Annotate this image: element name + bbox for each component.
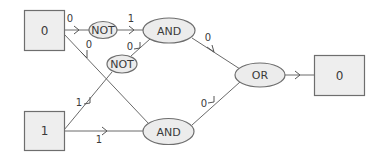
input-box-a: 0 — [25, 11, 65, 51]
not-gate-mid: NOT — [107, 55, 137, 73]
input-box-b: 1 — [25, 112, 65, 151]
or-gate-label: OR — [252, 69, 269, 82]
wire-label-a-to-not-top: 0 — [67, 13, 73, 24]
wire-and-top-to-or — [192, 38, 240, 69]
or-gate: OR — [235, 63, 285, 87]
and-gate-top-label: AND — [157, 25, 181, 38]
wire-label-b-to-and-bottom: 1 — [96, 134, 102, 145]
arrow-icon — [81, 50, 87, 58]
output-box: 0 — [315, 56, 365, 96]
and-gate-bottom: AND — [143, 119, 194, 145]
logic-circuit-diagram: 0 0 1 0 1 1 0 0 0 1 0 NOT NOT AND AND OR — [0, 0, 386, 160]
wire-b-to-not-mid — [64, 72, 112, 130]
not-gate-mid-label: NOT — [110, 58, 134, 71]
wire-label-and-bottom-to-or: 0 — [201, 98, 207, 109]
wire-label-and-top-to-or: 0 — [205, 32, 211, 43]
wire-and-bottom-to-or — [192, 82, 240, 125]
input-b-value: 1 — [41, 124, 49, 138]
wire-label-a-to-and-bottom: 0 — [86, 39, 92, 50]
wire-label-not-top-to-and-top: 1 — [128, 13, 134, 24]
arrow-icon — [208, 96, 214, 103]
wire-label-b-to-not-mid: 1 — [76, 97, 82, 108]
not-gate-top: NOT — [89, 22, 117, 39]
arrow-icon — [134, 42, 140, 49]
and-gate-top: AND — [143, 18, 195, 43]
input-a-value: 0 — [41, 24, 49, 38]
not-gate-top-label: NOT — [91, 24, 115, 37]
and-gate-bottom-label: AND — [156, 126, 180, 139]
output-value: 0 — [336, 69, 344, 83]
wire-label-not-mid-to-and-top: 0 — [127, 41, 133, 52]
